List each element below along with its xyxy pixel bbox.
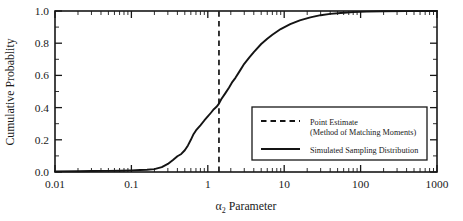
x-tick-label: 0.1 bbox=[124, 178, 139, 190]
y-tick-label: 1.0 bbox=[35, 5, 50, 17]
x-axis-tick-labels: 0.010.11101001000 bbox=[45, 178, 449, 190]
x-tick-label: 10 bbox=[279, 178, 291, 190]
x-axis-title: α2 Parameter bbox=[216, 199, 277, 215]
y-tick-label: 0.0 bbox=[35, 166, 50, 178]
y-tick-label: 0.2 bbox=[35, 134, 50, 146]
figure-container: 0.010.11101001000 0.00.20.40.60.81.0 Poi… bbox=[0, 0, 463, 221]
y-axis-title-text: Cumulative Probablity bbox=[3, 38, 17, 145]
y-tick-label: 0.8 bbox=[35, 37, 50, 49]
x-axis-title-rest: Parameter bbox=[226, 199, 277, 213]
x-tick-label: 1 bbox=[205, 178, 211, 190]
legend-label-point-estimate: Point Estimate bbox=[310, 118, 358, 127]
y-tick-label: 0.4 bbox=[35, 102, 50, 114]
legend-label-point-estimate-sub: (Method of Matching Moments) bbox=[310, 128, 416, 137]
legend-label-simulated-distribution: Simulated Sampling Distribution bbox=[310, 146, 418, 155]
y-axis-title: Cumulative Probablity bbox=[3, 38, 17, 145]
svg-text:α2 Parameter: α2 Parameter bbox=[216, 199, 277, 215]
x-tick-label: 100 bbox=[352, 178, 369, 190]
legend: Point Estimate (Method of Matching Momen… bbox=[252, 107, 427, 160]
x-tick-label: 1000 bbox=[426, 178, 449, 190]
x-tick-label: 0.01 bbox=[45, 178, 65, 190]
y-tick-label: 0.6 bbox=[35, 69, 50, 81]
y-axis-tick-labels: 0.00.20.40.60.81.0 bbox=[35, 5, 50, 178]
